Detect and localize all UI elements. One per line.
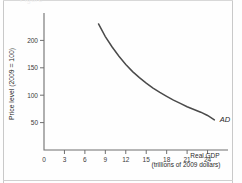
- x-tick-label: 6: [83, 156, 87, 163]
- x-tick-label: 3: [63, 156, 67, 163]
- y-axis-title: Price level (2009 = 100): [8, 48, 16, 120]
- ad-curve-label: AD: [219, 115, 231, 124]
- y-axis-ticks: 50100150200: [27, 37, 44, 126]
- x-tick-label: 0: [42, 156, 46, 163]
- x-axis-title-units: (trillions of 2009 dollars): [151, 161, 220, 169]
- ad-demand-curve: [99, 24, 215, 120]
- x-tick-label: 9: [104, 156, 108, 163]
- y-tick-label: 200: [27, 37, 38, 44]
- y-tick-label: 50: [31, 119, 39, 126]
- y-tick-label: 100: [27, 92, 38, 99]
- chart-axes: [44, 13, 228, 150]
- figure-container: Figure 50100150200 03691215182124 AD Pri…: [0, 0, 242, 183]
- x-tick-label: 12: [122, 156, 130, 163]
- ad-curve-chart: 50100150200 03691215182124 AD Price leve…: [0, 0, 242, 183]
- x-axis-title: Real GDP: [190, 152, 219, 159]
- y-tick-label: 150: [27, 64, 38, 71]
- x-tick-label: 15: [143, 156, 151, 163]
